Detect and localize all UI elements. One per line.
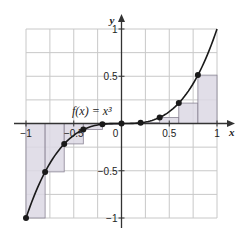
riemann-rectangle (198, 75, 217, 123)
y-axis-arrow-icon (118, 14, 125, 22)
data-point (61, 141, 67, 147)
data-point (119, 121, 125, 127)
y-tick-label: 0.5 (104, 71, 118, 82)
data-point (80, 127, 86, 133)
y-axis-label: y (108, 14, 115, 26)
x-tick-label: 1 (214, 128, 220, 139)
riemann-sum-chart: −1−0.500.5110.5−0.5−1 x y f(x) = x³ (0, 0, 245, 243)
y-tick-label: −0.5 (98, 166, 118, 177)
x-axis-label: x (228, 126, 235, 138)
x-tick-label: 0 (113, 128, 119, 139)
data-point (176, 100, 182, 106)
data-point (42, 169, 48, 175)
data-point (157, 114, 163, 120)
riemann-rectangle (179, 103, 198, 123)
data-point (23, 215, 29, 221)
x-tick-label: −1 (20, 128, 32, 139)
data-point (195, 72, 201, 78)
x-tick-label: 0.5 (162, 128, 176, 139)
data-point (138, 120, 144, 126)
y-tick-label: −1 (106, 213, 118, 224)
data-point (99, 121, 105, 127)
function-label: f(x) = x³ (72, 104, 112, 118)
